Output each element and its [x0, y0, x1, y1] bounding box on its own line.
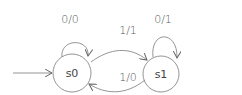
transition-s0-s0: 0/0	[61, 13, 88, 57]
state-s0[interactable]: s0	[53, 54, 91, 92]
transition-label: 0/0	[61, 13, 79, 26]
transition-s1-s1: 0/1	[153, 13, 177, 58]
state-s0-label: s0	[66, 67, 79, 80]
state-s1[interactable]: s1	[143, 56, 179, 92]
transition-s0-s1: 1/1	[91, 24, 147, 62]
transition-s1-s0: 1/0	[89, 71, 145, 92]
state-diagram: s0 s1 0/0 1/1 0/1 1/0	[0, 0, 242, 95]
state-s1-label: s1	[155, 68, 168, 81]
transition-label: 1/0	[119, 71, 137, 84]
transition-label: 0/1	[154, 13, 172, 26]
transition-label: 1/1	[119, 24, 137, 37]
